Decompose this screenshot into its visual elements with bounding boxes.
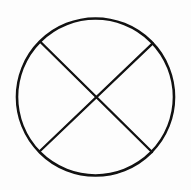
crossed-circle-icon bbox=[0, 0, 191, 190]
diagram-canvas bbox=[0, 0, 191, 190]
